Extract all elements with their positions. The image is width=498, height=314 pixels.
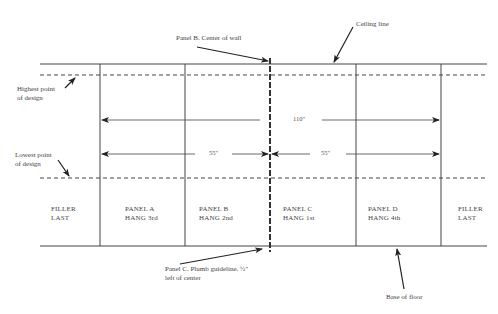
panel-name: PANEL A: [125, 205, 158, 214]
panel-order: HANG 3rd: [125, 214, 158, 223]
panel-filler-left: FILLER LAST: [51, 205, 76, 223]
lowest-point-arrow: [58, 160, 69, 176]
panel-a: PANEL A HANG 3rd: [125, 205, 158, 223]
panel-b-center-arrow: [197, 47, 268, 61]
lowest-point-label: Lowest point of design: [15, 151, 52, 168]
dimension-55-right-label: 55": [319, 149, 332, 156]
highest-point-label-line-1: Highest point: [17, 85, 55, 94]
lowest-point-label-line-2: of design: [15, 160, 52, 169]
highest-point-label: Highest point of design: [17, 85, 55, 102]
panel-b-center-label: Panel B. Center of wall: [176, 34, 242, 43]
plumb-guideline-label: Panel C. Plumb guideline. ½" left of cen…: [165, 265, 248, 282]
panel-order: HANG 1st: [283, 214, 315, 223]
dimension-110-label: 110": [291, 115, 307, 122]
lowest-point-label-line-1: Lowest point: [15, 151, 52, 160]
base-of-floor-label: Base of floor: [386, 293, 423, 302]
plumb-guideline-label-line-1: Panel C. Plumb guideline. ½": [165, 265, 248, 274]
plumb-guideline-arrow: [180, 249, 262, 264]
panel-name: PANEL C: [283, 205, 315, 214]
panel-name: PANEL D: [368, 205, 401, 214]
panel-c: PANEL C HANG 1st: [283, 205, 315, 223]
plumb-guideline-label-line-2: left of center: [165, 274, 248, 283]
panel-order: HANG 2nd: [199, 214, 233, 223]
wallpaper-hanging-diagram: [0, 0, 498, 314]
panel-d: PANEL D HANG 4th: [368, 205, 401, 223]
panel-name: PANEL B: [199, 205, 233, 214]
highest-point-arrow: [65, 78, 75, 88]
panel-order: LAST: [51, 214, 76, 223]
panel-name: FILLER: [51, 205, 76, 214]
panel-order: LAST: [458, 214, 483, 223]
panel-order: HANG 4th: [368, 214, 401, 223]
highest-point-label-line-2: of design: [17, 94, 55, 103]
ceiling-line-label: Ceiling line: [356, 20, 389, 29]
panel-b: PANEL B HANG 2nd: [199, 205, 233, 223]
panel-name: FILLER: [458, 205, 483, 214]
base-of-floor-arrow: [397, 249, 404, 289]
dimension-55-left-label: 55": [207, 149, 220, 156]
ceiling-line-arrow: [334, 27, 353, 62]
panel-filler-right: FILLER LAST: [458, 205, 483, 223]
